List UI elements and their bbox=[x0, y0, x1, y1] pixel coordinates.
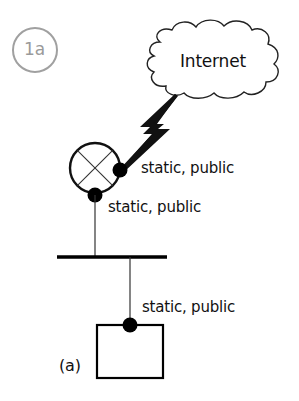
host-port-dot bbox=[123, 318, 138, 333]
badge-label: 1a bbox=[24, 39, 45, 59]
cloud-label: Internet bbox=[180, 51, 246, 71]
router-wan-port-dot bbox=[113, 163, 128, 178]
router-lan-address-label: static, public bbox=[108, 198, 201, 216]
host-address-label: static, public bbox=[142, 298, 235, 316]
host-box-icon bbox=[97, 325, 163, 378]
router-wan-address-label: static, public bbox=[141, 159, 234, 177]
host-caption: (a) bbox=[59, 356, 81, 375]
wan-link-line bbox=[155, 95, 176, 124]
